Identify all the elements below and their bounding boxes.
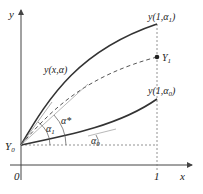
y-axis-label: y bbox=[8, 8, 14, 20]
alpha1-label: α1 bbox=[46, 123, 55, 136]
upper-end-label: y(1,α1) bbox=[147, 11, 176, 24]
x-tick-1-label: 1 bbox=[154, 170, 160, 182]
general-curve-label: y(x,α) bbox=[43, 64, 68, 76]
x-axis-label: x bbox=[179, 170, 185, 182]
alpha0-label: α0 bbox=[91, 135, 100, 148]
lower-end-label: y(1,α0) bbox=[147, 85, 176, 98]
target-point-y1 bbox=[155, 55, 160, 60]
y0-label: Y0 bbox=[5, 140, 15, 154]
alpha-star-label: α* bbox=[61, 115, 71, 126]
shooting-method-diagram: y x 0 1 Y0 Y1 y(1,α1) y(1,α0) y(x,α) α1 … bbox=[0, 0, 203, 194]
origin-label: 0 bbox=[14, 170, 20, 182]
target-curve bbox=[21, 57, 157, 145]
y1-label: Y1 bbox=[162, 52, 171, 65]
